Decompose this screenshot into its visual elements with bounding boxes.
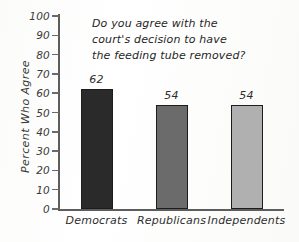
bar [231,105,263,209]
y-axis-tick [52,112,59,114]
y-axis-tick [52,15,59,17]
y-axis-tick [52,131,59,133]
y-axis-tick-label: 40 [4,126,50,138]
bar-chart: Percent Who Agree 1009080706050403020100… [0,0,299,242]
y-axis-tick [52,92,59,94]
x-axis-category-label: Independents [197,214,297,227]
y-axis-tick [52,73,59,75]
y-axis-tick-label: 10 [4,184,50,196]
y-axis-tick-label: 50 [4,107,50,119]
y-axis-tick-label: 60 [4,87,50,99]
y-axis-tick-label: 90 [4,29,50,41]
y-axis-tick [52,150,59,152]
y-axis-tick-label: 100 [4,10,50,22]
y-axis-tick [52,54,59,56]
bar-value-label: 54 [217,89,277,102]
y-axis-tick-label: 20 [4,164,50,176]
y-axis-tick [52,35,59,37]
bar [156,105,188,209]
y-axis-tick-label: 70 [4,68,50,80]
y-axis-tick-label: 0 [4,203,50,215]
plot-area [59,16,284,209]
bar-value-label: 54 [142,89,202,102]
y-axis-tick-label: 30 [4,145,50,157]
x-axis-line [58,209,284,211]
bar-value-label: 62 [67,73,127,86]
y-axis-tick-label: 80 [4,49,50,61]
y-axis-tick [52,189,59,191]
bar [81,89,113,209]
y-axis-tick [52,170,59,172]
